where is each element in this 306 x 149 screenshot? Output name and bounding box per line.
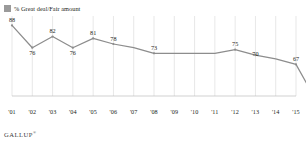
data-point (92, 37, 94, 39)
x-tick-label: '15 (292, 107, 300, 116)
legend-swatch-icon (4, 5, 11, 12)
plot-svg: 8876827681787375706755 (0, 14, 306, 107)
data-label: 82 (49, 27, 55, 34)
x-tick-label: '05 (89, 107, 97, 116)
x-axis-tick-labels: '01'02'03'04'05'06'07'08'09'10'11'12'13'… (0, 107, 306, 119)
x-tick-label: '03 (49, 107, 57, 116)
data-point (11, 24, 13, 26)
gallup-brand: GALLUP® (4, 130, 36, 138)
x-tick-label: '14 (272, 107, 280, 116)
x-tick-label: '06 (110, 107, 118, 116)
data-label: 67 (293, 55, 299, 62)
x-tick-label: '12 (231, 107, 239, 116)
data-label: 88 (9, 16, 15, 23)
x-tick-label: '07 (130, 107, 138, 116)
x-tick-label: '01 (8, 107, 16, 116)
data-label: 76 (70, 49, 76, 56)
legend-label: % Great deal/Fair amount (14, 5, 80, 12)
data-point (153, 52, 155, 54)
gallup-line-chart: % Great deal/Fair amount 887682768178737… (0, 0, 306, 149)
chart-legend: % Great deal/Fair amount (4, 3, 80, 14)
gallup-wordmark: GALLUP (4, 131, 33, 138)
data-label: 70 (252, 50, 258, 57)
trademark-symbol: ® (33, 130, 36, 135)
x-tick-label: '08 (150, 107, 158, 116)
data-point (51, 35, 53, 37)
x-tick-label: '09 (170, 107, 178, 116)
x-tick-label: '13 (252, 107, 260, 116)
data-label: 73 (151, 44, 157, 51)
data-point (234, 48, 236, 50)
x-tick-label: '10 (191, 107, 199, 116)
data-label: 81 (90, 29, 96, 36)
series-line (12, 25, 306, 86)
x-tick-label: '04 (69, 107, 77, 116)
data-point (112, 43, 114, 45)
data-label: 75 (232, 40, 238, 47)
data-point (295, 63, 297, 65)
x-tick-label: '02 (28, 107, 36, 116)
data-label: 76 (29, 49, 35, 56)
x-tick-label: '11 (211, 107, 218, 116)
plot-area: 8876827681787375706755 (0, 14, 306, 107)
data-label: 78 (110, 35, 116, 42)
